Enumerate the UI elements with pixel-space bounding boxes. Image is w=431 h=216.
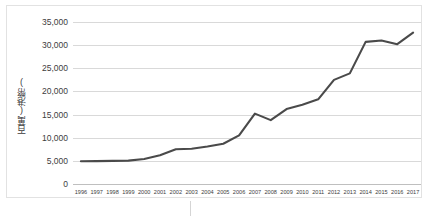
x-axis-tick-label: 2002 [170,189,182,195]
x-axis-tick-label: 2008 [264,189,276,195]
below-chart-artifacts [0,199,431,216]
x-axis-tick-label: 2004 [201,189,213,195]
y-axis-tick-labels: 35,00030,00025,00020,00015,00010,0005,00… [29,6,71,199]
x-axis-tick-label: 2009 [280,189,292,195]
x-axis-tick-label: 2012 [328,189,340,195]
x-axis-tick-label: 2000 [138,189,150,195]
x-axis-tick-label: 2017 [407,189,419,195]
chart-frame: 百萬(港幣) 35,00030,00025,00020,00015,00010,… [6,5,422,198]
x-axis-tick-label: 1997 [90,189,102,195]
x-axis-tick-label: 2014 [359,189,371,195]
x-axis-tick-label: 2005 [217,189,229,195]
x-axis-tick-label: 1998 [106,189,118,195]
x-axis-tick-label: 2003 [185,189,197,195]
plot-area [73,6,421,199]
x-axis-tick-label: 2010 [296,189,308,195]
y-axis-tick-label: 35,000 [42,17,68,27]
y-axis-tick-label: 0 [63,179,68,189]
chart-screenshot: 百萬(港幣) 35,00030,00025,00020,00015,00010,… [0,0,431,216]
x-axis-tick-label: 2001 [154,189,166,195]
x-axis-tick-label: 1996 [75,189,87,195]
vertical-rule [190,201,191,216]
x-axis-tick-label: 2016 [391,189,403,195]
y-axis-tick-label: 25,000 [42,63,68,73]
x-axis-tick-label: 2006 [233,189,245,195]
y-axis-tick-label: 15,000 [42,110,68,120]
x-axis-tick-label: 1999 [122,189,134,195]
y-axis-tick-label: 5,000 [47,156,68,166]
x-axis-tick-label: 2011 [312,189,324,195]
y-axis-title: 百萬(港幣) [15,66,29,146]
y-axis-tick-label: 20,000 [42,86,68,96]
x-axis-tick-label: 2015 [375,189,387,195]
line-series [73,6,421,199]
y-axis-tick-label: 10,000 [42,133,68,143]
y-axis-tick-label: 30,000 [42,40,68,50]
x-axis-tick-label: 2013 [344,189,356,195]
x-axis-tick-label: 2007 [249,189,261,195]
